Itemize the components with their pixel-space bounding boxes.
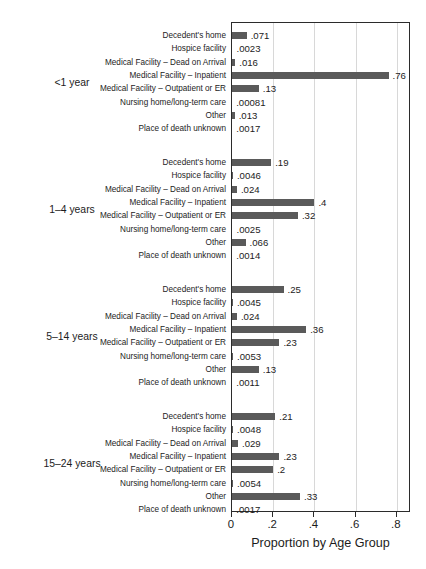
category-label: Hospice facility [26, 296, 226, 309]
bar-row: Other.013 [0, 109, 426, 122]
bar-value-label: .19 [275, 156, 288, 169]
bar-row: Other.13 [0, 363, 426, 376]
bar [232, 466, 273, 473]
bar-row: Place of death unknown.0017 [0, 503, 426, 516]
category-label: Nursing home/long-term care [26, 477, 226, 490]
bar-value-label: .25 [288, 283, 301, 296]
bar-value-label: .23 [283, 336, 296, 349]
bar-row: Decedent's home.19 [0, 156, 426, 169]
bar [232, 112, 235, 119]
bar-row: Place of death unknown.0011 [0, 376, 426, 389]
bar-row: Medical Facility – Dead on Arrival.029 [0, 437, 426, 450]
x-tick [396, 512, 397, 517]
category-label: Nursing home/long-term care [26, 350, 226, 363]
x-axis-title: Proportion by Age Group [231, 536, 410, 550]
bar-value-label: .013 [239, 109, 258, 122]
bar-row: Decedent's home.21 [0, 410, 426, 423]
bar-value-label: .33 [304, 490, 317, 503]
bar-value-label: .0025 [237, 223, 261, 236]
bar-row: Nursing home/long-term care.0054 [0, 477, 426, 490]
bar [232, 212, 298, 219]
bar-row: Medical Facility – Dead on Arrival.016 [0, 56, 426, 69]
bar [232, 413, 275, 420]
bar-row: Nursing home/long-term care.00081 [0, 96, 426, 109]
category-label: Decedent's home [26, 29, 226, 42]
bar [232, 286, 284, 293]
bar-row: Hospice facility.0046 [0, 169, 426, 182]
bar-row: Place of death unknown.0017 [0, 122, 426, 135]
group-label: 1–4 years [26, 204, 118, 215]
bar-value-label: .13 [263, 363, 276, 376]
x-tick-label: .2 [267, 518, 277, 530]
bar-value-label: .76 [393, 69, 406, 82]
category-label: Place of death unknown [26, 503, 226, 516]
category-label: Hospice facility [26, 42, 226, 55]
bar [232, 326, 306, 333]
bar-value-label: .36 [310, 323, 323, 336]
bar-row: Other.33 [0, 490, 426, 503]
bar [232, 353, 233, 360]
bar [232, 480, 233, 487]
category-label: Decedent's home [26, 410, 226, 423]
category-label: Hospice facility [26, 169, 226, 182]
bar [232, 172, 233, 179]
x-tick-label: .8 [391, 518, 401, 530]
bar-value-label: .016 [239, 56, 258, 69]
bar-value-label: .0048 [237, 423, 261, 436]
bar [232, 239, 246, 246]
category-label: Other [26, 109, 226, 122]
bar-value-label: .0045 [237, 296, 261, 309]
bar [232, 339, 279, 346]
bar-value-label: .23 [283, 450, 296, 463]
bar-value-label: .0053 [237, 350, 261, 363]
category-label: Medical Facility – Dead on Arrival [26, 183, 226, 196]
category-label: Medical Facility – Dead on Arrival [26, 310, 226, 323]
bar-row: Other.066 [0, 236, 426, 249]
x-tick [272, 512, 273, 517]
x-tick-label: .4 [309, 518, 319, 530]
bar-row: Nursing home/long-term care.0053 [0, 350, 426, 363]
bar-row: Hospice facility.0048 [0, 423, 426, 436]
bar-value-label: .0017 [236, 122, 260, 135]
x-tick [231, 512, 232, 517]
bar-value-label: .0046 [237, 169, 261, 182]
category-label: Place of death unknown [26, 249, 226, 262]
category-label: Medical Facility – Dead on Arrival [26, 56, 226, 69]
bar [232, 440, 238, 447]
bar-value-label: .0017 [236, 503, 260, 516]
bar-row: Place of death unknown.0014 [0, 249, 426, 262]
bar-value-label: .4 [318, 196, 326, 209]
bar-value-label: .024 [241, 310, 260, 323]
bar [232, 493, 300, 500]
category-label: Medical Facility – Dead on Arrival [26, 437, 226, 450]
category-label: Other [26, 236, 226, 249]
x-tick [355, 512, 356, 517]
chart-figure: Decedent's home.071Hospice facility.0023… [0, 0, 426, 569]
bar [232, 299, 233, 306]
bar-value-label: .066 [250, 236, 269, 249]
x-tick-label: 0 [228, 518, 234, 530]
x-tick [313, 512, 314, 517]
category-label: Other [26, 363, 226, 376]
bar-row: Decedent's home.071 [0, 29, 426, 42]
category-label: Nursing home/long-term care [26, 96, 226, 109]
bar-row: Medical Facility – Dead on Arrival.024 [0, 183, 426, 196]
category-label: Other [26, 490, 226, 503]
bar-value-label: .029 [242, 437, 261, 450]
bar [232, 313, 237, 320]
bar-row: Hospice facility.0023 [0, 42, 426, 55]
bar-value-label: .21 [279, 410, 292, 423]
bar-value-label: .32 [302, 209, 315, 222]
bar-row: Nursing home/long-term care.0025 [0, 223, 426, 236]
bar-value-label: .00081 [236, 96, 265, 109]
category-label: Nursing home/long-term care [26, 223, 226, 236]
bar-row: Hospice facility.0045 [0, 296, 426, 309]
category-label: Hospice facility [26, 423, 226, 436]
group-label: <1 year [26, 77, 118, 88]
bar-row: Decedent's home.25 [0, 283, 426, 296]
bar [232, 453, 279, 460]
bar-value-label: .0054 [237, 477, 261, 490]
bar [232, 186, 237, 193]
bar-value-label: .0011 [236, 376, 259, 389]
category-label: Place of death unknown [26, 376, 226, 389]
